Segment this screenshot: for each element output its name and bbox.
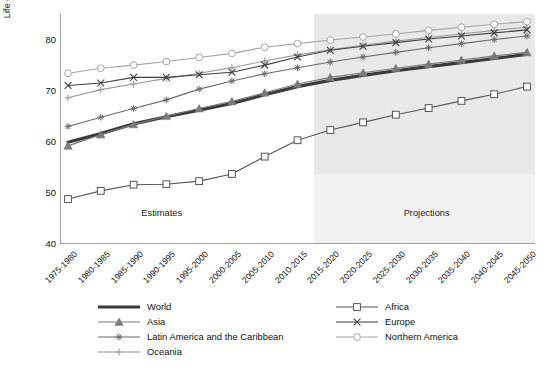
legend-key-triangle	[96, 316, 142, 328]
data-point-marker-square	[458, 97, 465, 104]
data-point-marker-asterisk	[327, 59, 334, 66]
data-point-marker-square	[327, 127, 334, 134]
x-axis-ticks: 1975-19801980-19851985-19901990-19951995…	[60, 246, 555, 306]
data-point-marker-circle	[354, 334, 361, 341]
legend-label: Asia	[147, 317, 165, 326]
y-tick-label: 70	[26, 86, 56, 96]
data-point-marker-asterisk	[116, 334, 123, 341]
legend-label: Africa	[385, 302, 409, 311]
legend-key-plus	[96, 346, 142, 358]
legend-label: Latin America and the Caribbean	[147, 332, 284, 341]
data-point-marker-asterisk	[294, 64, 301, 71]
chart-svg	[60, 14, 535, 244]
data-point-marker-plus	[196, 70, 203, 77]
data-point-marker-circle	[130, 62, 137, 69]
legend-item[interactable]: Africa	[334, 300, 409, 314]
plot-area	[60, 14, 535, 244]
legend-label: Europe	[385, 317, 415, 326]
data-point-marker-plus	[65, 94, 72, 101]
data-point-marker-plus	[130, 81, 137, 88]
data-point-marker-circle	[491, 21, 498, 28]
legend-key-asterisk	[96, 331, 142, 343]
data-point-marker-circle	[425, 27, 432, 34]
legend-item[interactable]: Oceania	[96, 345, 182, 359]
data-point-marker-circle	[458, 24, 465, 31]
data-point-marker-circle	[360, 34, 367, 41]
data-point-marker-circle	[229, 50, 236, 57]
legend-key-circle	[334, 331, 380, 343]
data-point-marker-plus	[116, 349, 123, 356]
legend-label: Oceania	[147, 347, 182, 356]
data-point-marker-circle	[294, 40, 301, 47]
legend-label: World	[147, 302, 171, 311]
data-point-marker-asterisk	[130, 105, 137, 112]
data-point-marker-square	[163, 181, 170, 188]
legend-item[interactable]: Asia	[96, 315, 165, 329]
data-point-marker-plus	[97, 86, 104, 93]
legend-item[interactable]: Northern America	[334, 330, 458, 344]
legend-item[interactable]: Europe	[334, 315, 415, 329]
data-point-marker-square	[425, 105, 432, 112]
data-point-marker-asterisk	[491, 36, 498, 43]
data-point-marker-circle	[163, 58, 170, 65]
data-point-marker-circle	[65, 70, 72, 77]
data-point-marker-square	[130, 181, 137, 188]
data-point-marker-circle	[261, 44, 268, 51]
data-point-marker-square	[392, 111, 399, 118]
data-point-marker-asterisk	[392, 49, 399, 56]
data-point-marker-asterisk	[65, 123, 72, 130]
y-axis-ticks: 4050607080	[22, 14, 56, 244]
data-point-marker-square	[65, 196, 72, 203]
band-annotation-projections: Projections	[404, 208, 450, 218]
data-point-marker-square	[294, 137, 301, 144]
data-point-marker-plus	[163, 75, 170, 82]
data-point-marker-circle	[327, 37, 334, 44]
band-annotation-estimates: Estimates	[141, 208, 182, 218]
data-point-marker-square	[97, 187, 104, 194]
legend-item[interactable]: World	[96, 300, 171, 314]
data-point-marker-circle	[97, 65, 104, 72]
data-point-marker-asterisk	[163, 96, 170, 103]
data-point-marker-asterisk	[458, 40, 465, 47]
data-point-marker-asterisk	[261, 70, 268, 77]
chart-figure: Life expectancy at birth (years) 4050607…	[0, 0, 555, 368]
data-point-marker-square	[261, 153, 268, 160]
data-point-marker-square	[360, 119, 367, 126]
data-point-marker-asterisk	[524, 33, 531, 40]
y-axis-label: Life expectancy at birth (years)	[2, 0, 12, 40]
data-point-marker-asterisk	[425, 44, 432, 51]
legend-key-square	[334, 301, 380, 313]
data-point-marker-square	[196, 178, 203, 185]
data-point-marker-circle	[392, 31, 399, 38]
legend-key-x	[334, 316, 380, 328]
data-point-marker-square	[491, 91, 498, 98]
data-point-marker-asterisk	[97, 114, 104, 121]
data-point-marker-square	[524, 83, 531, 90]
legend-label: Northern America	[385, 332, 458, 341]
data-point-marker-asterisk	[229, 78, 236, 85]
y-tick-label: 50	[26, 188, 56, 198]
data-point-marker-asterisk	[196, 86, 203, 93]
data-point-marker-asterisk	[360, 54, 367, 61]
y-tick-label: 60	[26, 137, 56, 147]
chart-legend: WorldAfricaAsiaEuropeLatin America and t…	[96, 300, 496, 362]
data-point-marker-circle	[524, 18, 531, 25]
y-tick-label: 40	[26, 239, 56, 249]
legend-key-none	[96, 301, 142, 313]
y-tick-label: 80	[26, 35, 56, 45]
data-point-marker-square	[229, 171, 236, 178]
legend-item[interactable]: Latin America and the Caribbean	[96, 330, 284, 344]
data-point-marker-circle	[196, 54, 203, 61]
data-point-marker-square	[354, 304, 361, 311]
